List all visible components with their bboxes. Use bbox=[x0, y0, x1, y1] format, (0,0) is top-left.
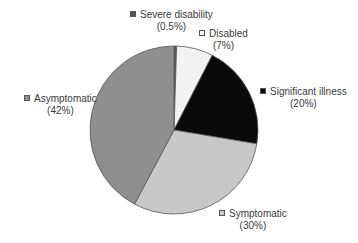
legend-swatch-symptomatic bbox=[219, 210, 225, 216]
label-asymptomatic: Asymptomatic (42%) bbox=[24, 93, 97, 117]
legend-swatch-disabled bbox=[199, 30, 205, 36]
legend-swatch-significant-illness bbox=[260, 88, 266, 94]
legend-swatch-asymptomatic bbox=[24, 95, 30, 101]
label-disabled: Disabled (7%) bbox=[199, 28, 248, 52]
label-symptomatic: Symptomatic (30%) bbox=[219, 208, 287, 232]
legend-swatch-severe-disability bbox=[130, 11, 136, 17]
label-significant-illness: Significant illness (20%) bbox=[260, 86, 347, 110]
pie-chart bbox=[0, 0, 358, 243]
